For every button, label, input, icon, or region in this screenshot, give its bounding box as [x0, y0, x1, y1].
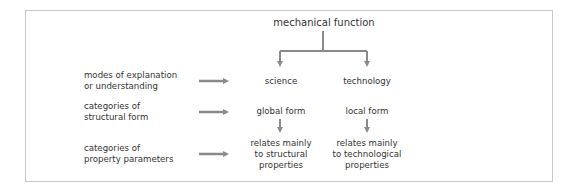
node-technology: technology: [343, 76, 391, 87]
node-technological-properties: relates mainly to technological properti…: [333, 138, 402, 171]
node-global-form: global form: [257, 106, 306, 117]
title-mechanical-function: mechanical function: [273, 17, 374, 29]
row-label-3: categories of property parameters: [84, 143, 173, 165]
node-structural-properties: relates mainly to structural properties: [250, 138, 311, 171]
node-science: science: [265, 76, 297, 87]
node-local-form: local form: [346, 106, 389, 117]
row-label-1: modes of explanation or understanding: [84, 70, 177, 92]
tree-connector: [280, 31, 367, 64]
row-label-2: categories of structural form: [84, 101, 148, 123]
